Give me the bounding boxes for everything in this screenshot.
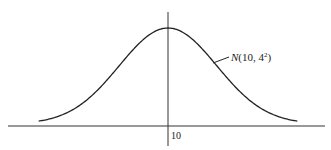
normal-distribution-chart: N(10, 42) 10: [0, 0, 331, 150]
x-tick-label-10: 10: [171, 130, 181, 141]
curve-label: N(10, 42): [230, 51, 272, 64]
annotation-arrow: [213, 57, 229, 63]
